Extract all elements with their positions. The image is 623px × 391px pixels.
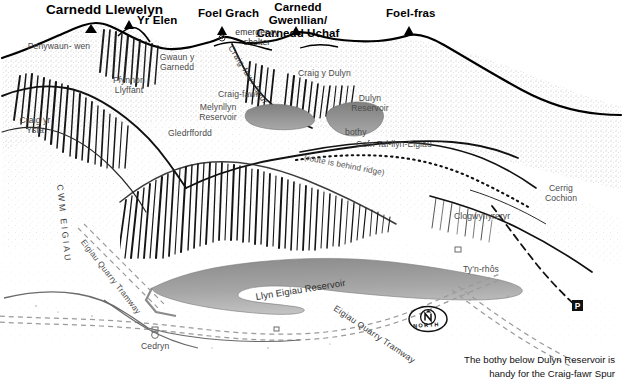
panorama-map: P Carnedd Llewelyn Yr Elen Foel Grach Ca…	[0, 0, 623, 391]
map-artwork: P	[0, 0, 623, 391]
parking-symbol: P	[572, 300, 583, 311]
svg-text:P: P	[575, 301, 581, 311]
map-caption: The bothy below Dulyn Reservoir is handy…	[355, 353, 615, 381]
